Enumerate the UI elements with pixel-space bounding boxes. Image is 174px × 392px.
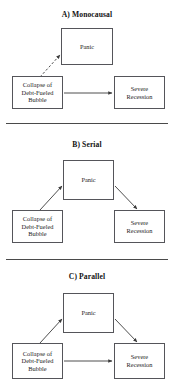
parallel-node-severe: Severe Recession (114, 343, 165, 379)
parallel-node-collapse-label: Collapse of Debt-Fueled Bubble (22, 350, 54, 373)
divider-a-b (6, 123, 168, 124)
divider-b-c (6, 259, 168, 260)
parallel-node-panic: Panic (63, 293, 114, 333)
causal-diagram-figure: A) MonocausalPanicCollapse of Debt-Fuele… (0, 0, 174, 392)
parallel-node-collapse: Collapse of Debt-Fueled Bubble (12, 343, 63, 379)
parallel-node-severe-label: Severe Recession (127, 353, 153, 368)
panel-title-parallel: C) Parallel (0, 272, 174, 281)
parallel-node-panic-label: Panic (81, 309, 95, 317)
panel-parallel: C) ParallelPanicCollapse of Debt-Fueled … (0, 0, 174, 392)
